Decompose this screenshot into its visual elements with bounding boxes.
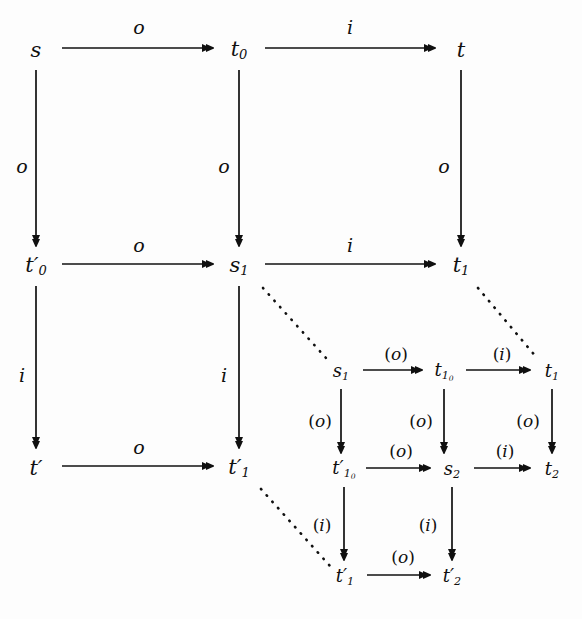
commutative-diagram: st0tt′0s1t1t′t′1s1t10t1t′10s2t2t′1t′2 oi… bbox=[0, 0, 582, 619]
node-tp: t′ bbox=[29, 458, 42, 479]
paren-close: ) bbox=[408, 547, 415, 567]
edge-label-it10-is2: (o) bbox=[409, 413, 433, 430]
edge-label-text: i bbox=[221, 364, 227, 386]
dotted-connector-lines bbox=[261, 288, 537, 566]
edge-label-text: i bbox=[19, 364, 25, 386]
node-is2: s2 bbox=[444, 460, 460, 480]
node-it1: t1 bbox=[545, 362, 559, 382]
edge-label-is2-it2: (i) bbox=[496, 443, 515, 460]
node-s1: s1 bbox=[229, 255, 248, 278]
edge-label-text: o bbox=[398, 547, 408, 567]
edge-label-is1-it10p: (o) bbox=[308, 413, 332, 430]
edge-label-tp-t1p: o bbox=[133, 438, 144, 457]
paren-open: ( bbox=[496, 441, 503, 461]
node-subscript: 1 bbox=[461, 263, 469, 278]
node-subscript: 0 bbox=[239, 47, 247, 62]
edge-label-text: o bbox=[133, 16, 144, 38]
edge-label-it10p-it1p: (i) bbox=[313, 517, 332, 534]
node-it10p: t′10 bbox=[332, 459, 355, 481]
edge-label-s-t0p: o bbox=[16, 157, 27, 176]
paren-close: ) bbox=[505, 344, 512, 364]
node-prime-mark: ′ bbox=[38, 456, 43, 480]
edge-label-text: o bbox=[16, 155, 27, 177]
node-it1p: t′1 bbox=[336, 567, 354, 587]
edge-label-text: o bbox=[315, 411, 325, 431]
edge-label-s1-t1: i bbox=[347, 236, 353, 255]
node-sub-subscript: 0 bbox=[449, 374, 454, 383]
edge-label-it1-it2: (o) bbox=[516, 413, 540, 430]
paren-close: ) bbox=[401, 344, 408, 364]
edge-label-text: o bbox=[391, 344, 401, 364]
node-base-letter: s bbox=[333, 360, 342, 381]
node-t0: t0 bbox=[231, 39, 248, 62]
node-sub-subscript: 0 bbox=[351, 472, 356, 481]
node-t0p: t′0 bbox=[25, 255, 47, 278]
edge-label-text: o bbox=[133, 234, 144, 256]
edge-label-it10p-is2: (o) bbox=[389, 443, 413, 460]
edge-label-t-t1: o bbox=[438, 157, 449, 176]
dotted-link-s1 bbox=[263, 288, 326, 358]
edge-label-text: i bbox=[347, 234, 353, 256]
paren-close: ) bbox=[431, 515, 438, 535]
paren-open: ( bbox=[419, 515, 426, 535]
paren-close: ) bbox=[406, 441, 413, 461]
edge-label-t0-s1: o bbox=[218, 157, 229, 176]
node-subscript: 2 bbox=[454, 575, 461, 588]
node-base-letter: s bbox=[31, 38, 42, 62]
paren-close: ) bbox=[533, 411, 540, 431]
edge-label-t0-t: i bbox=[347, 18, 353, 37]
node-subscript: 1 bbox=[241, 465, 249, 480]
node-base-letter: s bbox=[444, 458, 453, 479]
edge-label-text: o bbox=[218, 155, 229, 177]
paren-open: ( bbox=[391, 547, 398, 567]
edge-label-it1p-it2p: (o) bbox=[391, 549, 415, 566]
paren-open: ( bbox=[313, 515, 320, 535]
paren-close: ) bbox=[325, 411, 332, 431]
paren-open: ( bbox=[308, 411, 315, 431]
paren-open: ( bbox=[409, 411, 416, 431]
paren-close: ) bbox=[508, 441, 515, 461]
paren-open: ( bbox=[493, 344, 500, 364]
node-base-letter: t bbox=[457, 38, 465, 62]
node-subscript: 1 bbox=[342, 370, 349, 383]
node-is1: s1 bbox=[333, 362, 349, 382]
node-s: s bbox=[31, 40, 42, 61]
edge-label-text: o bbox=[438, 155, 449, 177]
node-t1: t1 bbox=[453, 255, 470, 278]
paren-open: ( bbox=[389, 441, 396, 461]
node-t1p: t′1 bbox=[228, 457, 250, 480]
edge-label-is2-it2p: (i) bbox=[419, 517, 438, 534]
edge-label-is1-it10: (o) bbox=[384, 346, 408, 363]
node-subscript: 10 bbox=[344, 467, 356, 480]
paren-open: ( bbox=[516, 411, 523, 431]
edge-label-text: o bbox=[523, 411, 533, 431]
node-subscript: 2 bbox=[453, 468, 460, 481]
node-base-letter: s bbox=[229, 253, 240, 277]
node-subscript: 10 bbox=[442, 369, 454, 382]
node-subscript: 0 bbox=[38, 263, 46, 278]
paren-close: ) bbox=[426, 411, 433, 431]
edge-label-text: o bbox=[133, 436, 144, 458]
node-it2: t2 bbox=[545, 460, 559, 480]
edge-label-text: o bbox=[396, 441, 406, 461]
edge-label-s1-t1p: i bbox=[221, 366, 227, 385]
edge-label-s-t0: o bbox=[133, 18, 144, 37]
edge-label-t0p-s1: o bbox=[133, 236, 144, 255]
node-subscript: 1 bbox=[347, 575, 354, 588]
node-t: t bbox=[457, 40, 465, 61]
node-subscript: 1 bbox=[240, 263, 248, 278]
edge-label-it10-it1: (i) bbox=[493, 346, 512, 363]
edge-layer bbox=[0, 0, 582, 619]
edge-label-text: i bbox=[347, 16, 353, 38]
edge-lines bbox=[36, 48, 552, 575]
node-subscript: 1 bbox=[552, 370, 559, 383]
edge-label-text: o bbox=[416, 411, 426, 431]
paren-open: ( bbox=[384, 344, 391, 364]
edge-label-t0p-tp: i bbox=[19, 366, 25, 385]
node-it2p: t′2 bbox=[443, 567, 461, 587]
node-it10: t10 bbox=[434, 361, 453, 383]
paren-close: ) bbox=[325, 515, 332, 535]
node-subscript: 2 bbox=[552, 468, 559, 481]
